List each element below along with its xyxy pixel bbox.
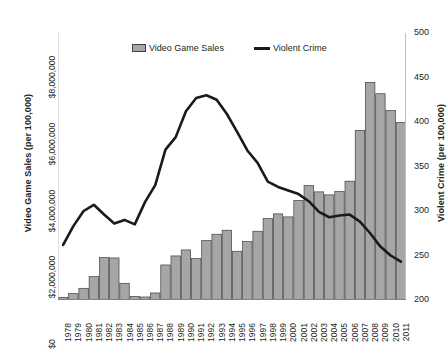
bar — [79, 288, 88, 300]
x-axis-tick-label: 1993 — [217, 323, 227, 353]
bar — [355, 130, 364, 300]
x-axis-tick-label: 1982 — [104, 323, 114, 353]
x-axis-tick-label: 1984 — [125, 323, 135, 353]
bar — [110, 258, 119, 300]
bar — [345, 181, 354, 300]
x-axis-tick-label: 2011 — [401, 323, 411, 353]
x-axis-tick-label: 1992 — [206, 323, 216, 353]
x-axis-tick-label: 1995 — [237, 323, 247, 353]
bar — [325, 195, 334, 300]
plot-area — [58, 33, 406, 300]
bar — [99, 258, 108, 300]
x-axis-tick-label: 1994 — [227, 323, 237, 353]
y-axis-left-tick-label: $8,000,000 — [47, 32, 57, 122]
y-axis-right-title: Violent Crime (per 100,000) — [436, 78, 446, 248]
x-axis-tick-label: 2004 — [329, 323, 339, 353]
y-axis-right-tick-label: 350 — [414, 161, 429, 171]
x-axis-tick-label: 1981 — [94, 323, 104, 353]
y-axis-right-tick-label: 200 — [414, 294, 429, 304]
x-axis-tick-label: 1990 — [186, 323, 196, 353]
bar — [222, 230, 231, 300]
x-axis-tick-label: 2005 — [339, 323, 349, 353]
bar — [273, 214, 282, 300]
x-axis-tick-label: 1997 — [258, 323, 268, 353]
bar — [396, 122, 405, 300]
line-swatch-icon — [254, 47, 270, 50]
x-axis-tick-label: 1986 — [145, 323, 155, 353]
bar — [335, 192, 344, 300]
bar — [294, 201, 303, 300]
y-axis-left-title: Video Game Sales (per 100,000) — [23, 78, 33, 248]
x-axis-tick-label: 2008 — [370, 323, 380, 353]
x-axis-tick-label: 1985 — [135, 323, 145, 353]
x-axis-tick-label: 2009 — [380, 323, 390, 353]
x-axis-tick-label: 2002 — [309, 323, 319, 353]
x-axis-tick-label: 1979 — [73, 323, 83, 353]
legend-label-violent-crime: Violent Crime — [273, 43, 327, 53]
x-axis-tick-label: 2001 — [299, 323, 309, 353]
x-axis-tick-label: 1991 — [196, 323, 206, 353]
bar — [263, 219, 272, 300]
bar — [243, 242, 252, 300]
x-axis-tick-label: 1983 — [114, 323, 124, 353]
bar — [376, 94, 385, 300]
x-axis-tick-label: 2003 — [319, 323, 329, 353]
bar — [386, 110, 395, 300]
x-axis-tick-label: 1998 — [268, 323, 278, 353]
x-axis-tick-label: 1989 — [176, 323, 186, 353]
bar — [212, 234, 221, 300]
bar — [120, 283, 129, 300]
x-axis-tick-label: 1980 — [84, 323, 94, 353]
bar — [365, 82, 374, 300]
x-axis-tick-label: 1978 — [63, 323, 73, 353]
bar — [181, 250, 190, 300]
bar — [202, 241, 211, 300]
bar — [171, 256, 180, 300]
y-axis-right-tick-label: 250 — [414, 250, 429, 260]
x-axis-tick-label: 2000 — [288, 323, 298, 353]
x-axis-tick-label: 2006 — [350, 323, 360, 353]
bar — [191, 259, 200, 300]
bar — [151, 293, 160, 300]
bar — [232, 251, 241, 300]
legend-item-video-game-sales: Video Game Sales — [132, 43, 224, 53]
x-axis-tick-label: 2007 — [360, 323, 370, 353]
y-axis-right-tick-label: 450 — [414, 72, 429, 82]
legend-item-violent-crime: Violent Crime — [254, 43, 327, 53]
bar-swatch-icon — [132, 44, 146, 52]
x-axis-tick-label: 1988 — [165, 323, 175, 353]
x-axis-tick-label: 1999 — [278, 323, 288, 353]
legend-label-video-game-sales: Video Game Sales — [149, 43, 224, 53]
bar — [89, 277, 98, 300]
y-axis-right-tick-label: 400 — [414, 116, 429, 126]
bar — [253, 231, 262, 300]
bar — [161, 265, 170, 300]
plot-svg — [58, 33, 406, 300]
bar — [284, 217, 293, 300]
y-axis-right-tick-label: 500 — [414, 27, 429, 37]
bar-series-video-game-sales — [58, 82, 405, 300]
chart-legend: Video Game Sales Violent Crime — [132, 43, 327, 53]
x-axis-tick-label: 1996 — [247, 323, 257, 353]
x-axis-tick-label: 1987 — [155, 323, 165, 353]
x-axis-tick-label: 2010 — [391, 323, 401, 353]
y-axis-right-tick-label: 300 — [414, 205, 429, 215]
